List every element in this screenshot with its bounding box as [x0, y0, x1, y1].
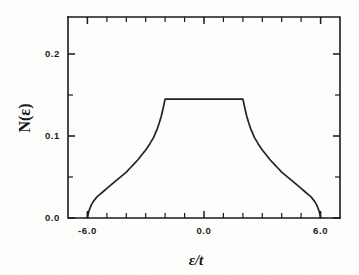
y-axis-ticks-right [333, 54, 340, 218]
x-tick-label-plus6: 6.0 [313, 225, 328, 236]
dos-curve [87, 99, 320, 218]
y-tick-label-0: 0.0 [45, 212, 60, 223]
x-axis-title: ε/t [189, 252, 204, 268]
y-tick-label-1: 0.1 [45, 130, 60, 141]
plot-canvas: 0.0 0.1 0.2 -6.0 0.0 6.0 ε/t N(ε) [0, 0, 359, 275]
x-tick-label-minus6: -6.0 [78, 225, 97, 236]
y-axis-title: N(ε) [16, 103, 34, 132]
dos-figure: 0.0 0.1 0.2 -6.0 0.0 6.0 ε/t N(ε) [0, 0, 359, 275]
x-tick-label-zero: 0.0 [196, 225, 211, 236]
x-axis-ticks [87, 211, 320, 218]
x-axis-ticks-top [87, 17, 320, 24]
y-axis-ticks [68, 54, 75, 218]
y-tick-label-2: 0.2 [45, 48, 60, 59]
